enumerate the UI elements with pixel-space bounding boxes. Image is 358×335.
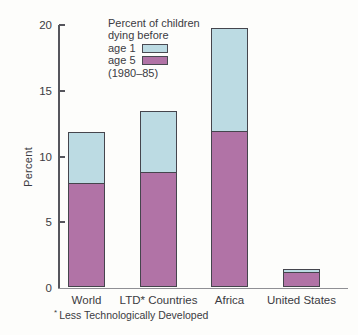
legend-title-line-2: dying before	[108, 29, 200, 41]
legend-item-age1: age 1	[108, 42, 200, 54]
bar-segment-age5	[212, 131, 247, 286]
y-tick-label-15: 15	[22, 84, 52, 98]
x-category-label-2: LTD* Countries	[120, 294, 198, 306]
y-tick-20	[59, 24, 65, 26]
y-tick-label-5: 5	[22, 215, 52, 229]
footnote-asterisk: *	[54, 308, 57, 317]
bar-world	[68, 132, 105, 287]
legend-title-line-1: Percent of children	[108, 17, 200, 29]
footnote: *Less Technologically Developed	[54, 308, 208, 321]
x-category-label-1: World	[72, 294, 102, 306]
x-category-label-3: Africa	[215, 294, 244, 306]
bar-segment-age1	[69, 133, 104, 183]
bar-segment-age5	[141, 172, 176, 286]
plot-area: 05101520WorldLTD* CountriesAfricaUnited …	[58, 25, 348, 288]
y-tick-15	[59, 90, 65, 92]
bar-segment-age5	[69, 183, 104, 286]
bar-segment-age1	[212, 29, 247, 131]
footnote-text: Less Technologically Developed	[59, 309, 208, 321]
y-tick-label-10: 10	[22, 150, 52, 164]
bar-ltd-countries	[140, 111, 177, 287]
bar-africa	[211, 28, 248, 287]
bar-united-states	[283, 269, 320, 287]
y-tick-label-20: 20	[22, 18, 52, 32]
figure: Percent 05101520WorldLTD* CountriesAfric…	[0, 0, 358, 335]
x-axis-line	[58, 288, 348, 289]
bar-segment-age5	[284, 272, 319, 286]
legend: Percent of children dying before age 1 a…	[108, 17, 200, 79]
legend-swatch-age1	[142, 44, 168, 53]
legend-item-age1-label: age 1	[108, 42, 136, 54]
legend-item-age5-label: age 5	[108, 54, 136, 66]
x-category-label-4: United States	[267, 294, 336, 306]
y-tick-label-0: 0	[22, 281, 52, 295]
y-tick-10	[59, 156, 65, 158]
legend-item-age5: age 5	[108, 54, 200, 66]
legend-swatch-age5	[142, 56, 168, 65]
legend-period: (1980–85)	[108, 67, 200, 79]
y-tick-5	[59, 221, 65, 223]
bar-segment-age1	[141, 112, 176, 172]
